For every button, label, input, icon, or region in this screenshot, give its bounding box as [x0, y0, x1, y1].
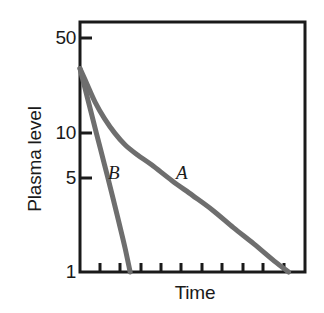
y-tick-label-10: 10 [55, 123, 76, 142]
chart-figure: 50 10 5 1 Plasma level Time B A [0, 0, 324, 313]
y-tick-label-5: 5 [66, 168, 76, 187]
x-axis-label: Time [152, 282, 238, 304]
y-axis-label: Plasma level [24, 79, 46, 239]
y-tick-label-50: 50 [55, 28, 76, 47]
curve-a-label: A [176, 163, 188, 182]
plot-frame [80, 22, 305, 272]
plot-area [0, 0, 324, 313]
curve-b-label: B [108, 163, 120, 182]
y-tick-label-1: 1 [66, 262, 76, 281]
curve-b [80, 69, 130, 272]
